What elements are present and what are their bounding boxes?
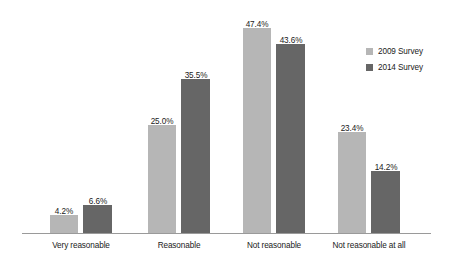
x-axis-baseline	[22, 233, 431, 234]
bar-2009-not-reasonable[interactable]	[243, 28, 271, 233]
legend-item-2009[interactable]: 2009 Survey	[366, 43, 423, 59]
bar-2009-very-reasonable[interactable]	[50, 215, 78, 233]
bar-group-not-reasonable	[243, 35, 305, 233]
bar-2014-not-reasonable-at-all[interactable]	[371, 171, 400, 233]
value-label-2009-very-reasonable: 4.2%	[41, 207, 87, 216]
legend-label-2009: 2009 Survey	[378, 47, 423, 56]
bar-chart: 4.2% 6.6% Very reasonable 25.0% 35.5% Re…	[0, 0, 453, 268]
value-label-2009-not-reasonable-at-all: 23.4%	[329, 124, 375, 133]
category-label-not-reasonable-at-all: Not reasonable at all	[304, 241, 434, 250]
bar-2014-very-reasonable[interactable]	[83, 205, 112, 233]
value-label-2014-very-reasonable: 6.6%	[75, 197, 121, 206]
value-label-2014-not-reasonable: 43.6%	[268, 36, 314, 45]
bar-2009-reasonable[interactable]	[148, 125, 176, 233]
bar-2014-reasonable[interactable]	[181, 79, 210, 233]
chart-legend: 2009 Survey 2014 Survey	[366, 43, 423, 75]
plot-area: 4.2% 6.6% Very reasonable 25.0% 35.5% Re…	[0, 0, 453, 268]
legend-item-2014[interactable]: 2014 Survey	[366, 59, 423, 75]
bar-2014-not-reasonable[interactable]	[276, 44, 305, 233]
value-label-2014-reasonable: 35.5%	[173, 71, 219, 80]
bar-group-reasonable	[148, 35, 210, 233]
legend-swatch-2014-icon	[366, 64, 373, 71]
value-label-2009-not-reasonable: 47.4%	[234, 20, 280, 29]
value-label-2009-reasonable: 25.0%	[139, 117, 185, 126]
legend-swatch-2009-icon	[366, 48, 373, 55]
bar-2009-not-reasonable-at-all[interactable]	[338, 132, 366, 233]
legend-label-2014: 2014 Survey	[378, 63, 423, 72]
value-label-2014-not-reasonable-at-all: 14.2%	[363, 163, 409, 172]
